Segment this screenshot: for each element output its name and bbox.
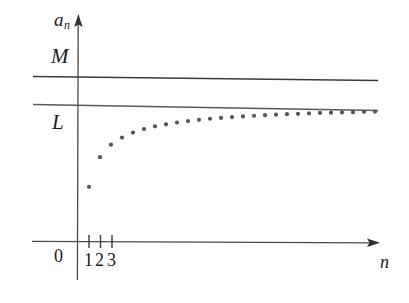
data-point [153,124,157,128]
data-point [329,111,333,115]
data-point [98,155,102,159]
data-point [197,118,201,122]
data-point [164,122,168,126]
y-axis-label-base: a [54,9,64,30]
data-point [285,112,289,116]
data-point [142,127,146,131]
sequence-convergence-figure: an n M L 0 1 2 3 [0,0,409,303]
data-point [241,114,245,118]
data-point [131,130,135,134]
data-point [208,117,212,121]
data-point [109,143,113,147]
tick-label-1: 1 [84,251,93,269]
tick-label-2: 2 [95,251,104,269]
data-point [120,135,124,139]
limit-label-L: L [52,112,64,133]
y-axis-label-subscript: n [64,18,70,32]
data-point [351,110,355,114]
data-point [186,119,190,123]
data-point [252,114,256,118]
data-point [263,113,267,117]
data-point [230,115,234,119]
y-axis-line [77,22,78,280]
data-point [87,185,91,189]
data-point [362,110,366,114]
data-point [307,111,311,115]
data-point [219,116,223,120]
y-axis-label: an [54,10,70,29]
data-point [274,113,278,117]
data-point [340,110,344,114]
data-point [373,109,377,113]
data-point [175,120,179,124]
x-axis-label: n [380,253,389,271]
origin-label: 0 [54,247,63,265]
tick-label-3: 3 [107,251,116,269]
bound-label-M: M [51,46,69,67]
data-point [318,111,322,115]
data-point [296,112,300,116]
